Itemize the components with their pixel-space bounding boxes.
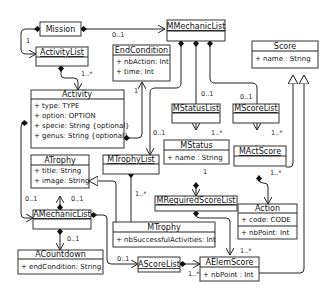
attribute: + type: TYPE xyxy=(34,102,80,110)
class-ascorelist[interactable]: AScoreList xyxy=(138,257,180,272)
attribute: + title: String xyxy=(34,167,81,175)
mult-label: 1..* xyxy=(240,247,252,255)
class-name: MScoreList xyxy=(234,104,277,113)
generalization-mtrophy-atrophy xyxy=(89,181,116,234)
mult-label: 1 xyxy=(134,87,138,95)
assoc-activitylist-activity xyxy=(61,66,78,90)
class-mrequiredscorelist[interactable]: MRequiredScoreList xyxy=(155,196,237,211)
mult-label: 1 xyxy=(26,37,30,45)
class-name: ACountdown xyxy=(35,250,86,259)
mult-label: 1 xyxy=(203,168,207,176)
mult-label: 1..* xyxy=(188,270,200,278)
attribute: + nbPoint : Int xyxy=(203,271,254,279)
mult-label: 0..1 xyxy=(71,195,83,203)
assoc-mactscore-action xyxy=(259,176,268,204)
class-mtrophy[interactable]: MTrophy + nbSuccessfulActivities: Int xyxy=(113,222,216,247)
class-mmechaniclist[interactable]: MMechanicList xyxy=(167,20,226,41)
mult-label: 0..1 xyxy=(117,255,129,263)
class-mscorelist[interactable]: MScoreList xyxy=(233,104,279,123)
class-mstatuslist[interactable]: MStatusList xyxy=(172,104,220,123)
class-mission[interactable]: Mission xyxy=(40,22,81,36)
class-action[interactable]: Action + code: CODE + nbPoint: Int xyxy=(238,204,297,239)
class-name: MTrophy xyxy=(147,223,181,232)
class-name: MMechanicList xyxy=(167,22,226,31)
class-atrophy[interactable]: ATrophy + title: String + image: String xyxy=(31,155,89,188)
mult-label: 1..* xyxy=(271,129,283,137)
mult-label: 1..* xyxy=(81,70,93,78)
mult-label: 0..1 xyxy=(201,90,213,98)
class-name: AMechanicList xyxy=(33,210,90,219)
class-mtrophylist[interactable]: MTrophyList xyxy=(103,155,159,174)
class-acountdown[interactable]: ACountdown + endCondition: String xyxy=(18,250,103,274)
class-name: AElemScore xyxy=(206,258,254,267)
class-name: MRequiredScoreList xyxy=(157,196,236,205)
mult-label: 0..1 xyxy=(112,31,124,39)
uml-class-diagram: 0..1 1 1..* 1 0..1 0..1 0..1 1..* 1..* 1… xyxy=(0,0,333,295)
attribute: + nbSuccessfulActivities: Int xyxy=(116,236,216,244)
mult-label: 0..1 xyxy=(240,93,252,101)
mult-label: 1..* xyxy=(270,169,282,177)
mult-label: 0..1 xyxy=(153,129,165,137)
mult-label: 1..* xyxy=(211,129,223,137)
class-name: Score xyxy=(274,42,296,51)
class-score[interactable]: Score + name : String xyxy=(252,41,318,68)
mult-label: 0..1 xyxy=(67,235,79,243)
class-activitylist[interactable]: ActivityList xyxy=(36,47,88,66)
attribute: + option: OPTION xyxy=(34,112,96,120)
class-activity[interactable]: Activity + type: TYPE + option: OPTION +… xyxy=(31,90,130,148)
attribute: + specie: String {optional} xyxy=(34,122,130,130)
class-name: MActScore xyxy=(239,147,281,156)
class-name: AScoreList xyxy=(138,260,180,269)
attribute: + nbAction: Int xyxy=(116,58,169,66)
class-name: Activity xyxy=(62,90,92,99)
attribute: + image: String xyxy=(34,177,89,185)
class-name: MStatusList xyxy=(173,104,219,113)
class-name: MStatus xyxy=(180,141,212,150)
mult-label: 1..* xyxy=(135,190,147,198)
attribute: + name : String xyxy=(255,55,311,63)
class-endcondition[interactable]: EndCondition + nbAction: Int + time: Int xyxy=(113,45,170,81)
class-mactscore[interactable]: MActScore xyxy=(234,146,286,166)
class-name: Action xyxy=(255,204,280,213)
class-mstatus[interactable]: MStatus + name : String xyxy=(164,140,229,164)
attribute: + code: CODE xyxy=(241,216,291,224)
attribute: + endCondition: String xyxy=(21,263,101,271)
class-name: EndCondition xyxy=(115,46,168,55)
generalization-mactscore-score xyxy=(286,75,293,167)
class-name: Mission xyxy=(46,25,76,34)
class-name: ATrophy xyxy=(44,156,76,165)
class-aelemscore[interactable]: AElemScore + nbPoint : Int xyxy=(200,257,259,281)
attribute: + name : String xyxy=(167,154,223,162)
class-name: MTrophyList xyxy=(107,155,155,164)
attribute: + nbPoint: Int xyxy=(241,229,289,237)
mult-label: 0..1 xyxy=(25,195,37,203)
class-amechaniclist[interactable]: AMechanicList xyxy=(33,210,91,229)
class-name: ActivityList xyxy=(40,48,84,57)
attribute: + time: Int xyxy=(116,68,154,76)
attribute: + genus: String {optional} xyxy=(34,132,128,140)
